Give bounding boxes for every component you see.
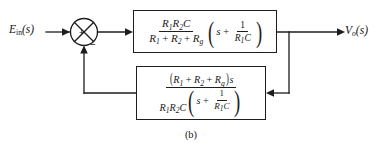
sym-R: R — [170, 102, 176, 113]
input-signal-argument: (s) — [22, 23, 34, 35]
arrowhead-into-summer — [80, 46, 88, 54]
sym-R: R — [162, 17, 169, 29]
paren-close-icon: ) — [234, 89, 240, 112]
output-signal-base: V — [345, 24, 352, 36]
sym-R: R — [149, 32, 156, 44]
output-signal-label: Vo(s) — [345, 24, 368, 36]
block-diagram-figure: Ein(s) Vo(s) + − R1R2C R1+R2+Rg ( s + 1 … — [0, 0, 382, 151]
feedback-path-inner-numerator: 1 — [217, 89, 228, 101]
sym-sub1: 1 — [169, 23, 173, 32]
sym-sub1: 1 — [241, 36, 245, 45]
arrowhead-into-feedback-block — [266, 89, 274, 97]
feedback-path-parenthetical: (s+1R1C) — [186, 89, 242, 112]
summing-junction-plus-sign: + — [79, 28, 84, 37]
sym-plus: + — [160, 32, 171, 44]
sym-plus: + — [204, 74, 215, 85]
output-signal-argument: (s) — [356, 24, 368, 36]
sym-R: R — [171, 32, 178, 44]
feedback-path-numerator-trailing-s: s — [229, 74, 233, 85]
sym-C: C — [244, 32, 250, 43]
sym-sub1: 1 — [156, 37, 160, 46]
paren-close-icon: ) — [256, 20, 262, 43]
sym-sub1: 1 — [166, 106, 170, 115]
feedback-path-numerator: (R1+R2+Rg)s — [166, 73, 237, 87]
sym-R: R — [160, 102, 166, 113]
feedback-path-expression: (R1+R2+Rg)s R1R2C(s+1R1C) — [157, 73, 246, 112]
forward-path-gain-fraction: R1R2C R1+R2+Rg — [146, 18, 206, 45]
sym-plus: + — [181, 32, 192, 44]
input-signal-label: Ein(s) — [9, 23, 34, 35]
arrowhead-into-forward-block — [125, 28, 133, 36]
forward-path-numerator: R1R2C — [159, 18, 193, 32]
forward-path-paren-operator: + — [221, 26, 232, 38]
sym-C: C — [180, 102, 187, 113]
forward-path-denominator: R1+R2+Rg — [146, 32, 206, 45]
sym-C: C — [183, 17, 190, 29]
input-signal-base: E — [9, 23, 16, 35]
sym-R: R — [214, 101, 220, 111]
sym-subg: g — [221, 79, 225, 88]
sym-sub2: 2 — [176, 106, 180, 115]
input-signal-subscript: in — [16, 28, 22, 37]
paren-open-icon: ( — [188, 89, 194, 112]
sym-sub1: 1 — [220, 104, 224, 113]
feedback-path-inner-fraction: 1R1C — [211, 89, 232, 111]
paren-close-icon: ) — [226, 73, 229, 84]
figure-caption: (b) — [0, 129, 382, 140]
forward-path-expression: R1R2C R1+R2+Rg ( s + 1 R1C ) — [146, 18, 264, 45]
sym-sub2: 2 — [178, 37, 182, 46]
forward-path-inner-fraction: 1 R1C — [232, 20, 254, 44]
forward-path-inner-numerator: 1 — [237, 20, 248, 32]
feedback-path-block: (R1+R2+Rg)s R1R2C(s+1R1C) — [136, 66, 266, 120]
feedback-path-denominator: R1R2C(s+1R1C) — [157, 88, 246, 113]
arrowhead-output — [337, 28, 345, 36]
sym-sub2: 2 — [200, 79, 204, 88]
sym-R: R — [235, 32, 241, 43]
sym-sub1: 1 — [179, 79, 183, 88]
forward-path-block: R1R2C R1+R2+Rg ( s + 1 R1C ) — [133, 10, 277, 53]
paren-open-icon: ( — [208, 20, 214, 43]
feedback-path-fraction: (R1+R2+Rg)s R1R2C(s+1R1C) — [157, 73, 246, 112]
arrowhead-input — [62, 28, 70, 36]
sym-C: C — [223, 101, 229, 111]
paren-open-icon: ( — [169, 73, 172, 84]
summing-junction-minus-sign: − — [90, 40, 96, 50]
forward-path-inner-denominator: R1C — [232, 32, 254, 43]
output-signal-subscript: o — [352, 29, 356, 38]
feedback-path-inner-denominator: R1C — [211, 101, 232, 112]
sym-subg: g — [199, 37, 203, 46]
sym-sub2: 2 — [179, 23, 183, 32]
forward-path-parenthetical: ( s + 1 R1C ) — [206, 20, 264, 44]
feedback-path-paren-operator: + — [200, 95, 211, 106]
